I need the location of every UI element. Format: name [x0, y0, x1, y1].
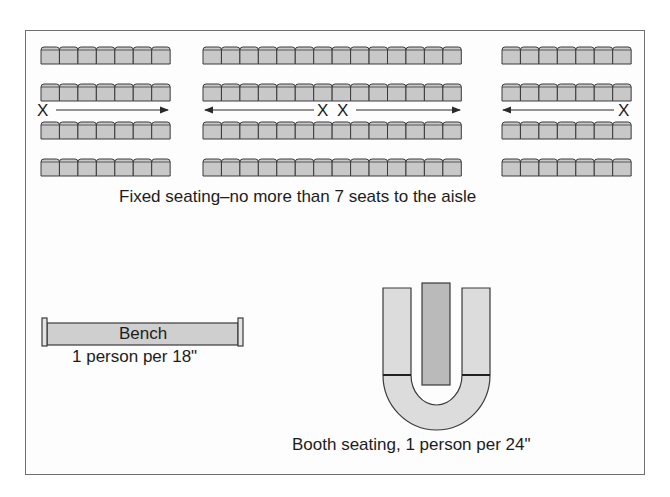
seat: [424, 159, 442, 176]
bench-caption: 1 person per 18": [72, 347, 197, 367]
seat: [613, 122, 631, 139]
seat: [41, 122, 59, 139]
seat: [221, 47, 239, 64]
fixed-seating-diagram: X X X X: [0, 0, 670, 497]
seat: [369, 84, 387, 101]
seat: [443, 122, 461, 139]
seat: [443, 47, 461, 64]
seat: [351, 84, 369, 101]
seat: [133, 159, 151, 176]
aisle-x-left: X: [37, 101, 48, 120]
seat: [203, 159, 221, 176]
booth-caption: Booth seating, 1 person per 24": [292, 435, 531, 455]
seat: [115, 84, 133, 101]
seat: [240, 122, 258, 139]
seat: [133, 122, 151, 139]
seat: [78, 122, 96, 139]
seat: [406, 122, 424, 139]
seat: [388, 159, 406, 176]
seat: [240, 84, 258, 101]
seat: [152, 47, 170, 64]
seat: [152, 159, 170, 176]
seat: [594, 84, 612, 101]
seat: [203, 84, 221, 101]
seat: [203, 122, 221, 139]
seat: [520, 159, 538, 176]
seat: [314, 159, 332, 176]
seat: [277, 159, 295, 176]
seat: [152, 84, 170, 101]
aisle-x-center-left: X: [317, 101, 328, 120]
seat: [221, 159, 239, 176]
seat: [388, 47, 406, 64]
seat: [314, 84, 332, 101]
seat: [277, 122, 295, 139]
aisle-x-center-right: X: [337, 101, 348, 120]
seat: [96, 122, 114, 139]
seat: [594, 122, 612, 139]
seat: [520, 47, 538, 64]
seat: [133, 84, 151, 101]
seat: [576, 159, 594, 176]
seat: [258, 122, 276, 139]
seat: [424, 47, 442, 64]
seat: [443, 84, 461, 101]
seat: [41, 84, 59, 101]
seat: [115, 122, 133, 139]
seat: [240, 47, 258, 64]
seat: [59, 84, 77, 101]
seat: [332, 47, 350, 64]
seat: [59, 122, 77, 139]
seat: [388, 84, 406, 101]
seat: [539, 47, 557, 64]
seat: [557, 84, 575, 101]
seat: [539, 84, 557, 101]
seat: [369, 122, 387, 139]
seat: [557, 47, 575, 64]
seat: [613, 47, 631, 64]
seat: [258, 159, 276, 176]
seat: [332, 84, 350, 101]
seat: [424, 122, 442, 139]
seat: [41, 159, 59, 176]
seat: [520, 122, 538, 139]
seat: [406, 84, 424, 101]
seat: [557, 159, 575, 176]
seat: [96, 84, 114, 101]
seat: [258, 47, 276, 64]
seat: [502, 122, 520, 139]
seat: [221, 84, 239, 101]
seat: [314, 47, 332, 64]
seat: [314, 122, 332, 139]
seat: [41, 47, 59, 64]
seat: [295, 159, 313, 176]
seat: [539, 122, 557, 139]
seat: [594, 159, 612, 176]
seat: [78, 84, 96, 101]
seat: [502, 47, 520, 64]
seat: [576, 84, 594, 101]
seat: [520, 84, 538, 101]
seat: [221, 122, 239, 139]
seat: [557, 122, 575, 139]
seat: [277, 47, 295, 64]
seat: [59, 47, 77, 64]
seat: [152, 122, 170, 139]
seat: [424, 84, 442, 101]
seat: [96, 159, 114, 176]
seat: [369, 47, 387, 64]
seat: [576, 47, 594, 64]
seat: [502, 84, 520, 101]
seat: [78, 159, 96, 176]
seat: [96, 47, 114, 64]
booth-table: [422, 283, 450, 385]
seat: [576, 122, 594, 139]
seat: [539, 159, 557, 176]
seat: [351, 159, 369, 176]
seat: [613, 159, 631, 176]
seat: [332, 122, 350, 139]
fixed-seating-caption: Fixed seating–no more than 7 seats to th…: [119, 187, 476, 207]
seat: [406, 47, 424, 64]
seat: [59, 159, 77, 176]
seat: [133, 47, 151, 64]
